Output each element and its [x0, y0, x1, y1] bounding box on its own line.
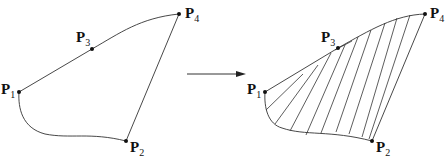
right-curve-p4-p2 — [372, 14, 425, 141]
right-point-p2 — [370, 139, 374, 143]
right-figure — [263, 12, 427, 143]
transform-arrow — [187, 71, 246, 77]
left-point-p2 — [124, 139, 128, 143]
right-point-p1 — [263, 90, 267, 94]
left-point-p4 — [177, 12, 181, 16]
right-label-p2: P2 — [376, 140, 390, 158]
hatch-lines — [266, 15, 410, 139]
left-curve-p1-p3-p4 — [19, 14, 179, 92]
right-label-p1: P1 — [247, 82, 261, 100]
left-label-p3: P3 — [76, 30, 90, 48]
patch-diagram: P1 P2 P3 P4 P1 P2 P3 P4 — [0, 0, 447, 158]
left-curve-p1-p2 — [19, 92, 126, 141]
diagram-canvas — [0, 0, 447, 158]
left-figure — [17, 12, 181, 143]
left-label-p2: P2 — [130, 140, 144, 158]
right-curve-p1-p3-p4 — [265, 14, 425, 92]
arrow-head-icon — [236, 71, 246, 77]
right-label-p4: P4 — [430, 6, 444, 24]
right-point-p3 — [336, 46, 340, 50]
right-point-p4 — [423, 12, 427, 16]
left-label-p4: P4 — [185, 6, 199, 24]
left-curve-p4-p2 — [126, 14, 179, 141]
left-point-p1 — [17, 90, 21, 94]
right-label-p3: P3 — [321, 30, 335, 48]
left-point-p3 — [90, 47, 94, 51]
left-label-p1: P1 — [1, 82, 15, 100]
